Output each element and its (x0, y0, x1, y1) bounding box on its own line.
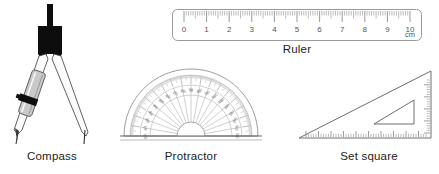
ruler-tick-label: 1 (204, 25, 209, 34)
compass-figure (4, 4, 100, 144)
protractor-label: Protractor (118, 150, 264, 162)
protractor-icon: 0180101702016030150401405013060120701108… (120, 62, 262, 144)
compass-stem (47, 4, 53, 26)
ruler-tick-label: 3 (250, 25, 255, 34)
ruler-tick-label: 7 (340, 25, 345, 34)
compass-pencil-holder (18, 69, 46, 117)
ruler-tick-label: 0 (182, 25, 187, 34)
ruler-figure: 012345678910 cm (172, 9, 422, 41)
ruler-tick-label: 2 (227, 25, 232, 34)
compass-lead-point (16, 138, 17, 144)
ruler-icon: 012345678910 cm (172, 9, 422, 41)
ruler-tick-label: 8 (363, 25, 368, 34)
set-square-figure (296, 68, 438, 144)
compass-needle-leg (52, 54, 88, 136)
ruler-tick-label: 5 (295, 25, 300, 34)
ruler-label: Ruler (222, 43, 372, 55)
illustration-canvas: Compass 012345678910 cm Ruler 0180101702… (0, 0, 439, 174)
set-square-label: Set square (300, 150, 438, 162)
set-square-icon (296, 68, 438, 144)
ruler-tick-label: 6 (317, 25, 322, 34)
compass-label: Compass (0, 150, 104, 162)
ruler-tick-label: 9 (385, 25, 390, 34)
protractor-inner-label: 90 (189, 89, 193, 93)
ruler-unit-label: cm (405, 30, 415, 39)
compass-icon (4, 4, 100, 144)
protractor-figure: 0180101702016030150401405013060120701108… (120, 62, 262, 144)
ruler-tick-label: 4 (272, 25, 277, 34)
